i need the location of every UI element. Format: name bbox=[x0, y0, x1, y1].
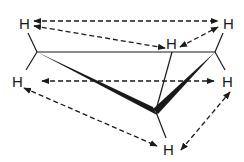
wedge-bond-c-left-c-bottom bbox=[37, 52, 157, 115]
ch-bonds bbox=[26, 33, 225, 138]
bond-c-bottom-h-bottom bbox=[156, 112, 166, 138]
arrow-top-left-mid-upper bbox=[34, 26, 165, 48]
arrow-mid-upper-top-right bbox=[180, 27, 218, 47]
bond-c-left-h-left bbox=[26, 52, 37, 70]
hh-interactions bbox=[24, 21, 230, 150]
atom-h-left: H bbox=[12, 73, 23, 90]
hydrogen-labels: H H H H H H bbox=[12, 15, 234, 158]
atom-h-top-right: H bbox=[223, 15, 234, 32]
molecule-diagram: H H H H H H bbox=[0, 0, 244, 162]
bond-c-right-h-top-right bbox=[215, 33, 223, 52]
atom-h-mid-upper: H bbox=[166, 35, 177, 52]
bond-c-right-h-right bbox=[215, 52, 225, 70]
arrow-left-bottom bbox=[24, 88, 157, 146]
bond-c-left-h-top-left bbox=[28, 33, 37, 52]
wedge-bond-c-right-c-bottom bbox=[153, 52, 215, 114]
arrow-bottom-right bbox=[181, 92, 230, 150]
atom-h-right: H bbox=[222, 73, 233, 90]
atom-h-top-left: H bbox=[19, 15, 30, 32]
atom-h-bottom: H bbox=[163, 141, 174, 158]
